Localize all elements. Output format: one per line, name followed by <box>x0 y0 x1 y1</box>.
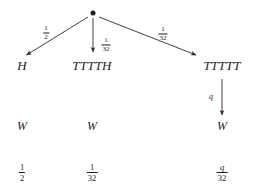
result-middle-denominator: 32 <box>87 172 98 182</box>
edge-weight-middle: 1 32 <box>102 28 111 53</box>
result-right-numerator: q <box>219 163 225 172</box>
edge-weight-right: 1 32 <box>159 17 168 42</box>
payoff-right: W <box>217 119 227 134</box>
result-left-numerator: 1 <box>19 163 25 172</box>
edge-weight-left-denominator: 2 <box>43 32 49 41</box>
outcome-node-left: H <box>17 58 27 74</box>
edge-weight-right-numerator: 1 <box>160 26 166 34</box>
root-node-dot <box>91 11 96 16</box>
result-middle: 1 32 <box>87 156 98 182</box>
edge-weight-right-denominator: 32 <box>159 33 168 42</box>
payoff-left: W <box>17 119 27 134</box>
edge-weight-q: q <box>209 92 213 101</box>
outcome-node-right: TTTTT <box>203 58 240 74</box>
payoff-middle: W <box>87 119 97 134</box>
edge-root-to-TTTTT <box>99 17 196 55</box>
probability-tree-figure: 1 2 1 32 1 32 H TTTTH TTTTT q W W W 1 2 … <box>0 0 256 188</box>
result-left-denominator: 2 <box>19 172 25 182</box>
result-right-denominator: 32 <box>217 172 228 182</box>
outcome-node-middle: TTTTH <box>72 58 111 74</box>
edge-root-to-H <box>27 17 89 55</box>
edge-weight-middle-numerator: 1 <box>103 37 109 45</box>
edge-weight-left-numerator: 1 <box>43 25 49 33</box>
result-middle-numerator: 1 <box>89 163 95 172</box>
result-left: 1 2 <box>19 156 25 182</box>
result-right: q 32 <box>217 156 228 182</box>
edge-weight-left: 1 2 <box>43 16 49 41</box>
edge-weight-middle-denominator: 32 <box>102 44 111 53</box>
